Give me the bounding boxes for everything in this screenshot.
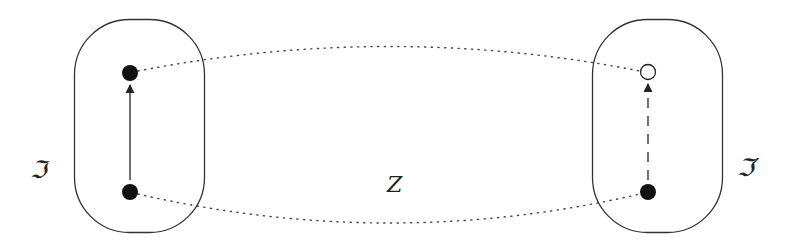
- left-bottom-node: [122, 184, 138, 200]
- left-top-node: [122, 65, 138, 81]
- left-set-label: ℑ: [30, 156, 51, 184]
- right-set-capsule: [593, 20, 723, 233]
- bottom-correspondence-curve: [138, 194, 640, 223]
- right-top-open-node: [641, 65, 656, 80]
- top-correspondence-curve: [138, 47, 640, 72]
- center-label-z: Z: [386, 172, 403, 197]
- right-set-label: ℑ′: [737, 154, 760, 182]
- right-bottom-node: [640, 184, 656, 200]
- diagram-canvas: ℑ ℑ′ Z: [0, 0, 791, 246]
- left-set-capsule: [75, 20, 205, 233]
